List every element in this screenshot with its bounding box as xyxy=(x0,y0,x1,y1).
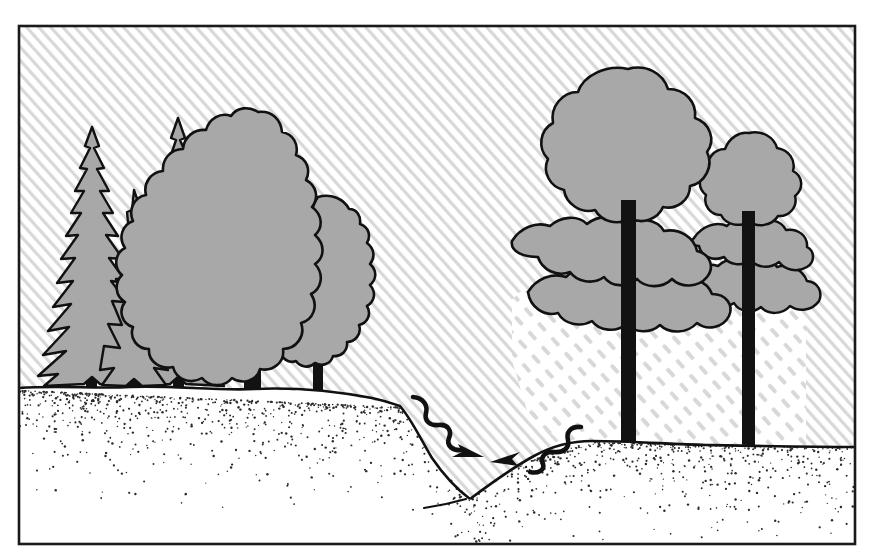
illustration-root xyxy=(0,0,874,558)
forest-hillside-illustration xyxy=(0,0,874,558)
pine-2-trunk xyxy=(742,211,755,447)
pine-1-trunk xyxy=(621,200,636,448)
